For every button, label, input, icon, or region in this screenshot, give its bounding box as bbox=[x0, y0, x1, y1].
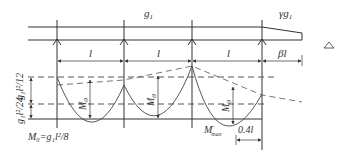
cantilever-load-label: γg1 bbox=[279, 7, 292, 21]
span-label-3: l bbox=[227, 47, 230, 59]
moment-curves bbox=[57, 66, 262, 126]
beam bbox=[28, 27, 302, 40]
triangle-marker-icon bbox=[324, 42, 334, 48]
span-label-2: l bbox=[157, 47, 160, 59]
m0-label-3: M0 bbox=[220, 100, 233, 113]
m0-label-2: M0 bbox=[145, 94, 158, 107]
m0-arrows bbox=[90, 76, 233, 124]
beam-moment-diagram: g1 γg1 l l l βl M0 M0 M0 bbox=[0, 0, 343, 151]
span-label-1: l bbox=[89, 47, 92, 59]
offset-label: 0.4l bbox=[238, 124, 254, 135]
m0-formula: M₀=g₁l²/8 bbox=[27, 131, 69, 142]
m-max-negative-label: M-max bbox=[203, 123, 222, 137]
span-dimensions bbox=[58, 55, 302, 66]
moment-envelope bbox=[57, 66, 302, 102]
support-1 bbox=[53, 20, 61, 128]
support-2 bbox=[120, 20, 128, 128]
cantilever-span-label: βl bbox=[277, 47, 287, 59]
span-load-label: g1 bbox=[144, 7, 153, 21]
side-label-upper: g₁l²/12 bbox=[14, 73, 25, 100]
side-label-lower: g₁l²/24 bbox=[14, 97, 25, 124]
